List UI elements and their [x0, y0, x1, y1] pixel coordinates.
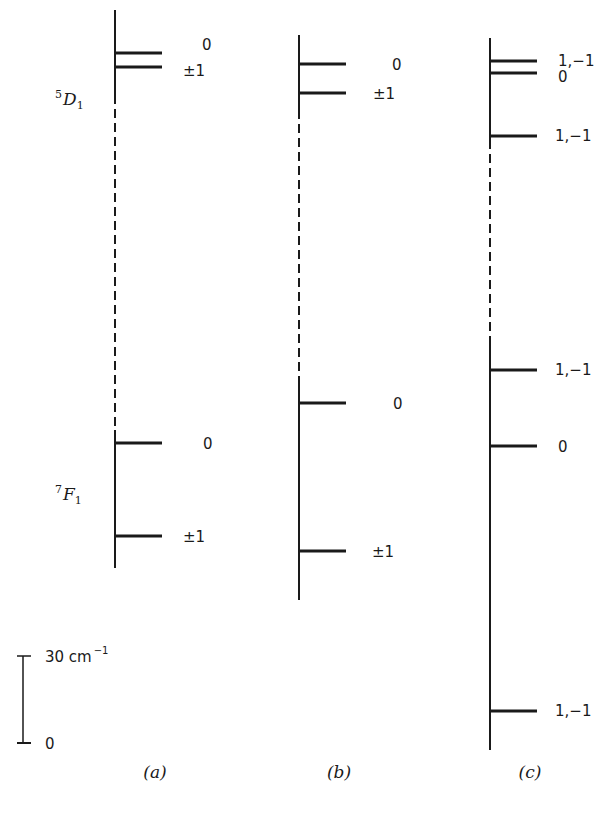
panel-b-level-label: ±1	[373, 85, 395, 103]
scale-bar-top-label: 30 cm−1	[45, 645, 108, 666]
scale-bar-bottom-label: 0	[45, 735, 55, 753]
panel-c-level-label: 1,−1	[555, 361, 591, 379]
panel-c-level-label: 0	[558, 438, 568, 456]
panel-c-level-label: 1,−1	[555, 127, 591, 145]
panel-a-level-label: 0	[203, 435, 213, 453]
panel-c-level-label: 0	[558, 68, 568, 86]
panel-b-level-label: 0	[392, 56, 402, 74]
panel-a-level-label: ±1	[183, 528, 205, 546]
term-symbol-5D1: 5D1	[55, 88, 84, 112]
panel-a-caption: (a)	[143, 762, 166, 782]
term-symbol-7F1: 7F1	[55, 483, 82, 507]
energy-level-diagram: 0±10±15D17F1(a)0±10±1(b)1,−101,−11,−101,…	[0, 0, 613, 813]
panel-a-level-label: 0	[202, 36, 212, 54]
panel-b-level-label: 0	[393, 395, 403, 413]
panel-c-caption: (c)	[519, 762, 542, 782]
panel-c-level-label: 1,−1	[555, 702, 591, 720]
panel-b-caption: (b)	[327, 762, 351, 782]
panel-a-level-label: ±1	[183, 62, 205, 80]
panel-b-level-label: ±1	[372, 543, 394, 561]
